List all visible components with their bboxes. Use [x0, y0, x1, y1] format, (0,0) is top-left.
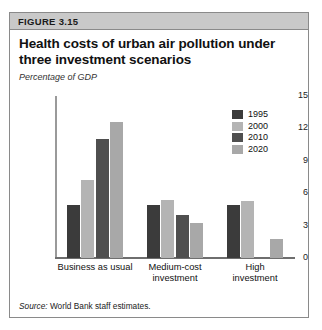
source-prefix: Source:	[19, 301, 48, 311]
axis-unit-label: Percentage of GDP	[19, 72, 308, 82]
chart-legend: 1995200020102020	[232, 110, 268, 156]
legend-label: 1995	[248, 110, 268, 119]
legend-label: 2020	[248, 145, 268, 154]
legend-swatch-icon	[232, 133, 243, 142]
legend-swatch-icon	[232, 145, 243, 154]
bar-2020	[270, 239, 283, 258]
source-text: World Bank staff estimates.	[50, 301, 151, 311]
figure-header: FIGURE 3.15	[10, 13, 308, 30]
legend-item: 2020	[232, 145, 268, 154]
legend-label: 2000	[248, 122, 268, 131]
figure-title: Health costs of urban air pollution unde…	[19, 36, 298, 67]
x-axis-label: Highinvestment	[207, 262, 303, 284]
legend-label: 2010	[248, 133, 268, 142]
legend-item: 1995	[232, 110, 268, 119]
legend-item: 2000	[232, 122, 268, 131]
legend-swatch-icon	[232, 110, 243, 119]
bar-2000	[241, 201, 254, 258]
legend-swatch-icon	[232, 122, 243, 131]
figure-number-label: FIGURE 3.15	[18, 16, 78, 27]
legend-item: 2010	[232, 133, 268, 142]
x-axis-label-line: investment	[207, 273, 303, 284]
source-note: Source: World Bank staff estimates.	[19, 301, 151, 311]
x-axis-label-line: High	[207, 262, 303, 273]
bar-1995	[227, 205, 240, 258]
figure-card: FIGURE 3.15 Health costs of urban air po…	[9, 12, 309, 318]
